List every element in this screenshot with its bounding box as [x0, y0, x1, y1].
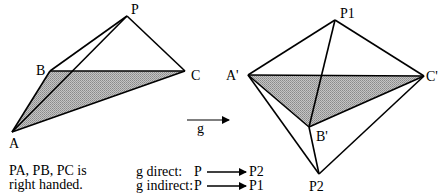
vertex-label-p: P: [131, 2, 139, 17]
legend-direct-label: g direct:: [136, 164, 182, 179]
vertex-label-c: C: [191, 68, 200, 83]
left-tetrahedron: P B C A: [9, 2, 200, 151]
transform-label-g: g: [197, 121, 204, 136]
edge-p1-c: [335, 20, 424, 76]
edge-p1-a: [248, 20, 335, 75]
vertex-label-b: B: [36, 63, 45, 78]
legend-indirect-to: P1: [249, 178, 264, 193]
vertex-label-a: A: [9, 136, 20, 151]
vertex-label-p1: P1: [340, 6, 355, 21]
vertex-label-p2: P2: [309, 179, 324, 194]
vertex-label-b-prime: B': [316, 129, 328, 144]
legend-indirect-label: g indirect:: [136, 178, 193, 193]
legend: g direct: P P2 g indirect: P P1: [136, 164, 264, 193]
caption-line-2: right handed.: [9, 178, 83, 192]
vertex-label-c-prime: C': [426, 69, 438, 84]
legend-direct-from: P: [194, 164, 202, 179]
transform-arrow: g: [187, 120, 229, 136]
caption-line-1: PA, PB, PC is: [9, 164, 87, 178]
legend-indirect-from: P: [194, 178, 202, 193]
vertex-label-a-prime: A': [226, 68, 239, 83]
edge-pc: [127, 16, 185, 71]
edge-pb: [50, 16, 127, 71]
legend-direct-to: P2: [249, 164, 264, 179]
edge-a-c-prime: [248, 75, 424, 76]
